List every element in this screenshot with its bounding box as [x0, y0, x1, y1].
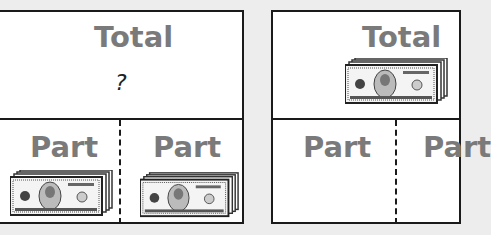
divider-line — [0, 118, 242, 120]
unknown-total-value: ? — [115, 70, 127, 95]
money-stack-icon — [140, 172, 240, 218]
dashed-part-divider — [395, 120, 397, 224]
part-label-left: Part — [30, 130, 98, 164]
part-whole-diagram-known-total: Total Part Part — [271, 10, 461, 224]
total-label: Total — [362, 20, 441, 54]
total-label: Total — [94, 20, 173, 54]
money-stack-icon — [10, 170, 114, 216]
dashed-part-divider — [119, 120, 121, 224]
part-label-left: Part — [303, 130, 371, 164]
part-whole-diagram-unknown-total: Total ? Part Part — [0, 10, 244, 224]
divider-line — [273, 118, 459, 120]
part-label-right: Part — [153, 130, 221, 164]
money-stack-icon — [345, 58, 449, 104]
part-label-right: Part — [423, 130, 491, 164]
